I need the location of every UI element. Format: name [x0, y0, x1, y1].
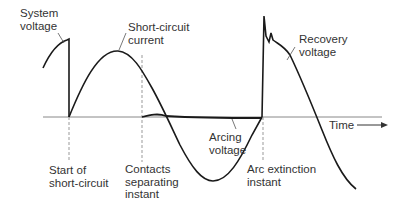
short-circuit-current-label: Short-circuit current: [128, 21, 189, 46]
system-voltage-leader: [58, 33, 64, 43]
system-voltage-label: System voltage: [20, 7, 58, 32]
time-axis-label: Time: [329, 119, 354, 132]
start-short-circuit-label: Start of short-circuit: [49, 164, 108, 189]
arcing-voltage-leader: [232, 119, 236, 129]
current-leader: [119, 33, 126, 50]
time-arrow-head-icon: [381, 122, 388, 128]
arcing-voltage-label: Arcing voltage: [209, 131, 246, 156]
system-voltage-curve: [43, 39, 69, 117]
arc-extinction-label: Arc extinction instant: [247, 163, 316, 188]
recovery-voltage-label: Recovery voltage: [299, 33, 348, 58]
contacts-separating-label: Contacts separating instant: [125, 163, 179, 201]
